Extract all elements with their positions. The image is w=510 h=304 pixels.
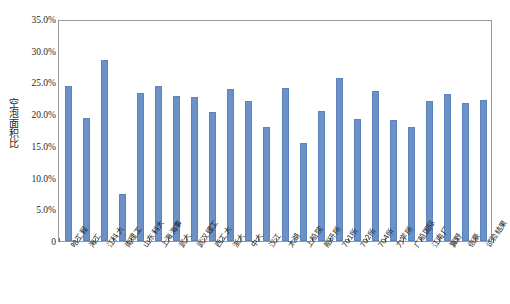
bar [282,88,289,241]
bar [462,103,469,241]
y-axis-tick-labels: 35.0%30.0%25.0%20.0%15.0%10.0%5.0%0 [18,0,56,304]
bar [480,100,487,241]
bar [390,120,397,241]
y-tick-label: 25.0% [18,78,56,88]
bar [336,78,343,241]
y-tick-label: 30.0% [18,47,56,57]
y-tick-label: 0 [18,237,56,247]
y-tick-label: 5.0% [18,205,56,215]
bar [83,118,90,241]
y-axis-title: 空泡面积比 [2,68,18,178]
bar [263,127,270,241]
bar [354,119,361,241]
plot-area [58,20,492,242]
y-tick-label: 35.0% [18,15,56,25]
bar [65,86,72,241]
bar [191,97,198,241]
bar [318,111,325,241]
bar [372,91,379,241]
bar [137,93,144,241]
y-tick-label: 15.0% [18,142,56,152]
bar [227,89,234,241]
bar [408,127,415,241]
plot-inner [59,21,491,241]
bar [300,143,307,241]
bar [245,101,252,241]
y-tick-label: 20.0% [18,110,56,120]
x-axis-tick-labels: 哈工程海工江科大南理工山东科大上海海事武大武汉理工西工大浙大中大汉江太湖上船院船… [58,243,492,304]
y-tick-label: 10.0% [18,174,56,184]
bar [444,94,451,241]
x-tick-mark [59,238,60,242]
bar [101,60,108,241]
